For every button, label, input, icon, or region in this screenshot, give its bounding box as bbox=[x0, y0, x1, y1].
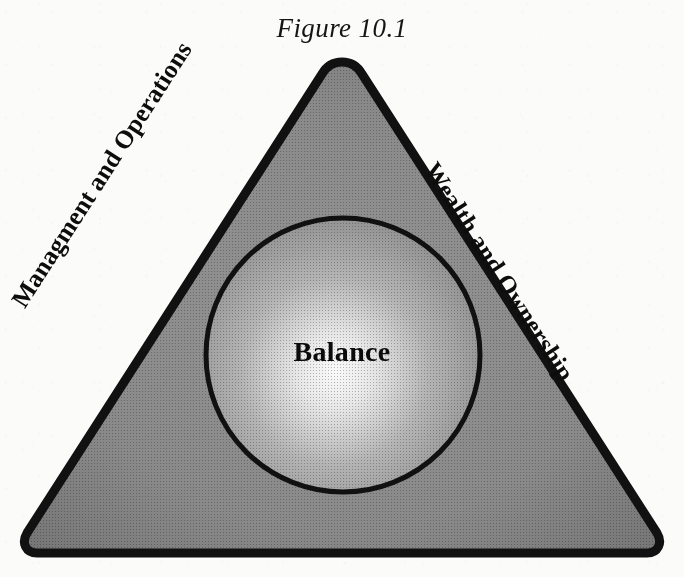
figure-title: Figure 10.1 bbox=[0, 13, 684, 44]
triangle-diagram bbox=[0, 0, 684, 577]
center-label-balance: Balance bbox=[0, 336, 684, 368]
figure-canvas: Figure 10.1 bbox=[0, 0, 684, 577]
